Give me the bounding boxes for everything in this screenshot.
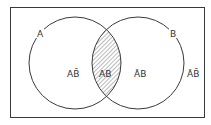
region-label-a-and-b: AB [99,69,111,79]
set-label-b: B [170,29,176,39]
set-label-a: A [37,29,44,39]
region-label-not-a-not-b: ĀB̄ [187,68,199,79]
region-label-a-not-b: AB̄ [67,68,79,79]
venn-diagram: A B AB̄ AB ĀB ĀB̄ [0,0,211,125]
region-label-not-a-b: ĀB [134,69,146,79]
